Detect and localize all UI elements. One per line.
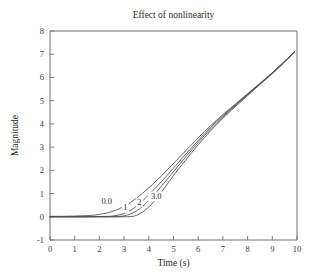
curve-label-3-0: 3.0 <box>151 191 162 201</box>
chart-title: Effect of nonlinearity <box>133 10 215 20</box>
curve-label-2: 2 <box>137 197 141 207</box>
figure-background <box>0 0 320 276</box>
y-tick-label: 7 <box>40 49 44 59</box>
y-axis-label: Magnitude <box>10 115 20 156</box>
curve-label-0-0: 0.0 <box>101 196 112 206</box>
y-tick-label: 6 <box>40 72 44 82</box>
x-tick-label: 1 <box>73 244 77 254</box>
x-tick-label: 9 <box>270 244 274 254</box>
curve-label-1: 1 <box>123 202 127 212</box>
x-tick-label: 6 <box>196 244 200 254</box>
x-tick-label: 4 <box>147 244 152 254</box>
x-tick-label: 10 <box>293 244 302 254</box>
y-tick-label: 3 <box>40 142 44 152</box>
x-tick-label: 8 <box>245 244 249 254</box>
x-tick-label: 2 <box>97 244 101 254</box>
chart-canvas: Effect of nonlinearity 012345678910 -101… <box>0 0 320 276</box>
x-tick-label: 3 <box>122 244 126 254</box>
y-tick-label: 2 <box>40 165 44 175</box>
x-tick-label: 7 <box>221 244 225 254</box>
x-tick-label: 0 <box>48 244 52 254</box>
y-tick-label: -1 <box>37 235 44 245</box>
y-tick-label: 1 <box>40 189 44 199</box>
y-tick-label: 8 <box>40 26 44 36</box>
x-axis-label: Time (s) <box>157 258 189 269</box>
chart-figure: Effect of nonlinearity 012345678910 -101… <box>0 0 320 276</box>
y-tick-label: 0 <box>40 212 44 222</box>
x-tick-label: 5 <box>171 244 175 254</box>
y-tick-label: 5 <box>40 96 44 106</box>
